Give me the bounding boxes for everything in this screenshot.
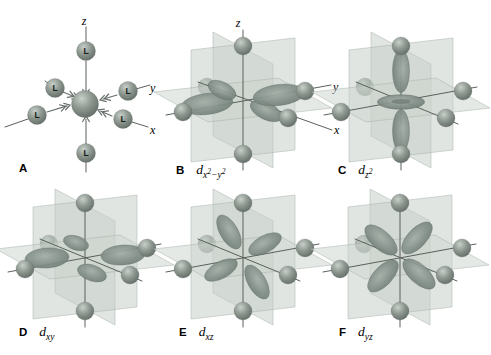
axis-line [132, 122, 148, 127]
ligand-sphere [392, 145, 410, 163]
ligand-sphere [391, 194, 409, 212]
orbital-caption-dxz: dxz [199, 325, 214, 339]
ligand-sphere [16, 260, 34, 278]
ligand-sphere [332, 103, 350, 121]
panel-scene-ligands: LLLLLLzyx [5, 14, 156, 172]
orbital-lobe [393, 50, 410, 93]
metal-ion-sphere [72, 91, 99, 118]
axis-line [5, 119, 28, 127]
ligand-sphere [234, 302, 252, 320]
ligand-sphere [138, 239, 156, 257]
ligand-sphere [454, 82, 472, 100]
panel-letter-d: D [19, 327, 27, 339]
panel-letter-e: E [179, 327, 187, 339]
ligand-label: L [120, 114, 125, 124]
ligand-sphere [296, 239, 314, 257]
panel-label-f: F dyz [339, 325, 373, 339]
panel-letter-b: B [176, 165, 184, 177]
panel-letter-c: C [338, 165, 346, 177]
ligand-sphere [234, 145, 252, 163]
ligand-sphere [174, 260, 192, 278]
panel-scene-dz2 [312, 32, 490, 170]
panel-scene-dxz [154, 189, 332, 327]
ligand-sphere [174, 103, 192, 121]
panel-letter-a: A [19, 163, 27, 175]
ligand-sphere [76, 302, 94, 320]
ligand-label: L [83, 46, 88, 56]
ligand-sphere [453, 239, 471, 257]
ligand-sphere [121, 266, 139, 284]
z-axis-label: z [235, 16, 241, 30]
y-axis-label: y [149, 81, 156, 95]
ligand-sphere [279, 266, 297, 284]
orbital-caption-dxy: dxy [39, 325, 54, 339]
dz2-torus-hole [392, 99, 411, 104]
ligand-label: L [83, 148, 88, 158]
panel-label-a: A [19, 163, 27, 175]
panel-label-c: C dz2 [338, 163, 373, 177]
ligand-sphere [279, 109, 297, 127]
x-axis-label: x [149, 123, 156, 137]
z-axis-label: z [81, 14, 87, 28]
ligand-sphere [437, 109, 455, 127]
ligand-sphere [392, 37, 410, 55]
orbital-diagrams-canvas: LLLLLLzyxzyx [0, 0, 491, 355]
panel-label-b: B dx2−y2 [176, 163, 225, 177]
panel-label-d: D dxy [19, 325, 55, 339]
ligand-sphere [234, 37, 252, 55]
orbital-caption-dz2: dz2 [358, 163, 372, 177]
panel-scene-dxy [0, 189, 174, 327]
ligand-label: L [34, 110, 39, 120]
ligand-sphere [296, 82, 314, 100]
ligand-sphere [436, 266, 454, 284]
panel-scene-dx2y2: zyx [154, 16, 340, 170]
ligand-label: L [125, 86, 130, 96]
ligand-sphere [391, 302, 409, 320]
orbital-caption-dx2y2: dx2−y2 [196, 163, 225, 177]
panel-letter-f: F [339, 327, 346, 339]
d-orbitals-figure: LLLLLLzyxzyx A B dx2−y2 C dz2 D dxy E dx… [0, 0, 491, 355]
x-axis-label: x [333, 123, 340, 137]
axis-line [136, 85, 150, 89]
ligand-sphere [331, 260, 349, 278]
ligand-sphere [76, 194, 94, 212]
panel-scene-dyz [311, 189, 489, 327]
ligand-label: L [52, 83, 57, 93]
orbital-caption-dyz: dyz [358, 325, 373, 339]
ligand-sphere [234, 194, 252, 212]
panel-label-e: E dxz [179, 325, 213, 339]
